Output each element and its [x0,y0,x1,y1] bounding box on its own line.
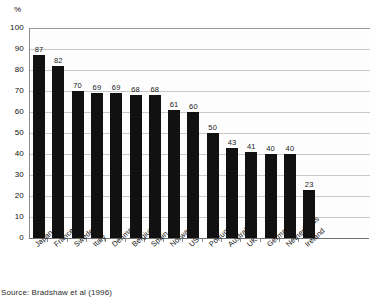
y-axis-tick-label: 60 [0,108,24,116]
bar [91,93,103,238]
y-axis-unit-label: % [14,5,21,14]
source-note: Source: Bradshaw et al (1996) [1,288,112,298]
bar-chart-figure: % 878270696968686160504341404023 1009080… [0,0,371,300]
bars-layer: 878270696968686160504341404023 [30,28,370,238]
bar [149,95,161,238]
y-axis-tick-label: 0 [0,234,24,242]
y-axis-tick-label: 100 [0,24,24,32]
bar-value-label: 68 [144,85,166,94]
bar-value-label: 23 [298,180,320,189]
y-axis-tick-label: 90 [0,45,24,53]
bar [52,66,64,238]
plot-area: 878270696968686160504341404023 [29,28,369,238]
y-axis-tick-label: 30 [0,171,24,179]
bar-value-label: 40 [279,144,301,153]
bar-value-label: 87 [28,45,50,54]
y-axis-tick-label: 20 [0,192,24,200]
y-axis-tick-label: 70 [0,87,24,95]
bar [265,154,277,238]
bar-value-label: 50 [202,123,224,132]
y-axis-tick-label: 80 [0,66,24,74]
bar [168,110,180,238]
bar [207,133,219,238]
bar [130,95,142,238]
y-axis-tick-label: 40 [0,150,24,158]
y-axis-tick-label: 50 [0,129,24,137]
bar-value-label: 82 [47,56,69,65]
bar-value-label: 60 [182,102,204,111]
bar [72,91,84,238]
y-axis-tick-label: 10 [0,213,24,221]
bar [187,112,199,238]
bar [110,93,122,238]
x-axis-category-labels: JapanFranceSwedenItalyDenmarkBelgiumSpai… [29,240,369,290]
bar [33,55,45,238]
